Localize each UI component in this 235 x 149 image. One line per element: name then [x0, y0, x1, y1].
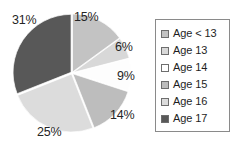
- legend-item-age-14: Age 14: [161, 59, 229, 76]
- legend-swatch-age-15: [161, 81, 169, 89]
- legend-swatch-age-14: [161, 64, 169, 72]
- pie-chart-figure: 15% 6% 9% 14% 25% 31% Age < 13 Age 13 Ag…: [0, 0, 235, 149]
- slice-label-age-under-13: 15%: [74, 11, 98, 24]
- legend-label-age-14: Age 14: [173, 62, 207, 73]
- legend-item-age-16: Age 16: [161, 93, 229, 110]
- legend-item-age-13: Age 13: [161, 42, 229, 59]
- slice-label-age-16: 25%: [37, 126, 61, 139]
- slice-label-age-14: 9%: [117, 70, 135, 83]
- legend-label-age-under-13: Age < 13: [173, 28, 217, 39]
- legend-swatch-age-17: [161, 115, 169, 123]
- pie-plot-area: 15% 6% 9% 14% 25% 31%: [0, 0, 152, 149]
- legend-swatch-age-under-13: [161, 30, 169, 38]
- legend-item-age-17: Age 17: [161, 110, 229, 127]
- legend-label-age-16: Age 16: [173, 96, 207, 107]
- legend-swatch-age-13: [161, 47, 169, 55]
- chart-legend: Age < 13 Age 13 Age 14 Age 15 Age 16 Age…: [155, 19, 230, 132]
- legend-swatch-age-16: [161, 98, 169, 106]
- legend-item-age-under-13: Age < 13: [161, 25, 229, 42]
- legend-item-age-15: Age 15: [161, 76, 229, 93]
- legend-label-age-15: Age 15: [173, 79, 207, 90]
- slice-label-age-17: 31%: [12, 14, 36, 27]
- slice-label-age-15: 14%: [110, 109, 134, 122]
- slice-label-age-13: 6%: [115, 41, 133, 54]
- legend-label-age-13: Age 13: [173, 45, 207, 56]
- legend-label-age-17: Age 17: [173, 113, 207, 124]
